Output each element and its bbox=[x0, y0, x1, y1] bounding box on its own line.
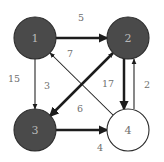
graph-canvas: 1234 5153761724 bbox=[0, 0, 164, 162]
edge-weight-4-1: 7 bbox=[67, 48, 73, 59]
node-label-4: 4 bbox=[125, 124, 132, 137]
node-2[interactable]: 2 bbox=[107, 17, 149, 59]
node-4[interactable]: 4 bbox=[107, 109, 149, 151]
node-label-1: 1 bbox=[32, 32, 39, 45]
edge-weight-2-3: 3 bbox=[44, 80, 50, 91]
edge-weight-1-2: 5 bbox=[78, 12, 84, 23]
node-3[interactable]: 3 bbox=[14, 109, 56, 151]
graph-diagram: 1234 5153761724 bbox=[0, 0, 164, 162]
edge-weight-3-4: 4 bbox=[97, 142, 103, 153]
node-1[interactable]: 1 bbox=[14, 17, 56, 59]
edge-weight-2-4: 17 bbox=[102, 78, 114, 89]
edge-weight-4-2: 2 bbox=[144, 79, 150, 90]
node-label-2: 2 bbox=[125, 32, 132, 45]
node-label-3: 3 bbox=[32, 124, 39, 137]
edge-weight-1-3: 15 bbox=[8, 73, 20, 84]
edge-weight-3-2: 6 bbox=[77, 103, 83, 114]
